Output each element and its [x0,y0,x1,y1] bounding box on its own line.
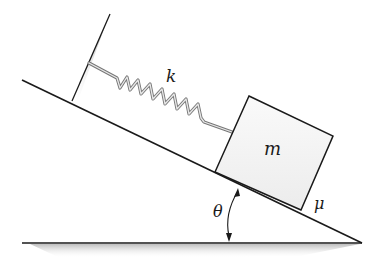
ground-shadow [30,244,360,258]
arrowhead-down-icon [226,233,232,242]
angle-arc [226,188,240,242]
arrowhead-up-icon [234,188,240,197]
diagram-canvas [0,0,385,268]
mass-label: m [264,140,281,158]
incline-spring-diagram: k m μ θ [0,0,385,268]
wall-line [72,14,110,101]
angle-label: θ [213,204,223,220]
friction-coefficient-label: μ [314,196,324,212]
spring-constant-label: k [166,68,176,85]
